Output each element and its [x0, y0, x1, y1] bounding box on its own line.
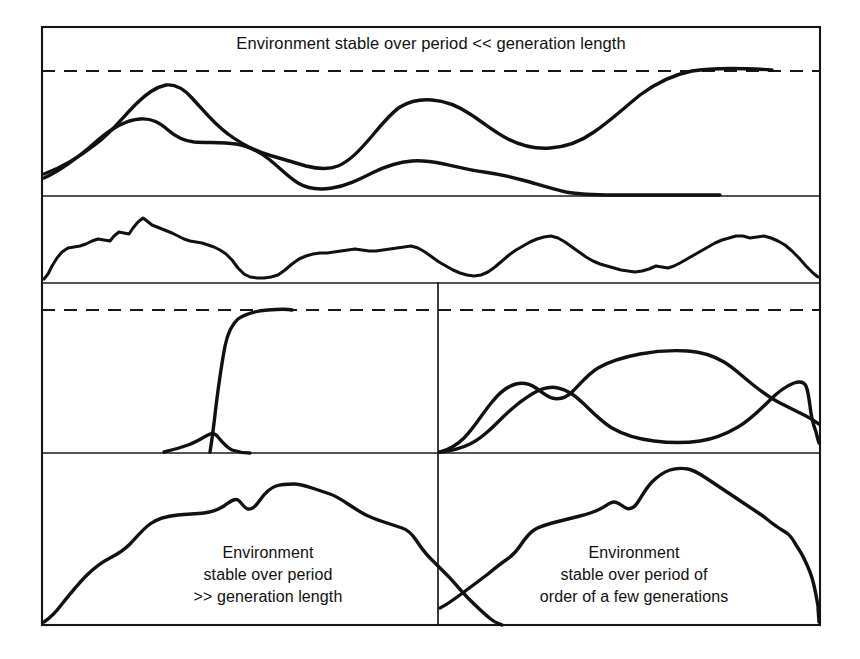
panel4-right-caption-line2: stable over period of — [560, 566, 708, 583]
panel4-left-caption-line2: stable over period — [204, 566, 333, 583]
figure-root: Environment stable over period << genera… — [0, 0, 860, 659]
panel4-right-caption-line1: Environment — [589, 544, 680, 561]
panel4-left-caption-line1: Environment — [223, 544, 314, 561]
panel4-left-caption-line3: >> generation length — [194, 588, 343, 605]
panel3-left-curve-rising — [210, 309, 292, 452]
panel4-right-caption-line3: order of a few generations — [540, 588, 729, 605]
panel2-curve-noisy — [44, 218, 818, 279]
panel3-left-curve-transient — [164, 434, 250, 453]
figure-outer-frame — [42, 27, 820, 625]
panel1-curve-b — [44, 119, 720, 195]
page-title: Environment stable over period << genera… — [236, 34, 625, 52]
schematic-line-figure: Environment stable over period << genera… — [0, 0, 860, 659]
